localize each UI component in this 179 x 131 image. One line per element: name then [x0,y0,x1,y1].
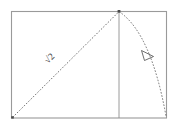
origin-marker [11,116,14,118]
figure-root: √2 [0,0,179,131]
apex-marker [118,10,121,13]
trajectory-figure: √2 [0,0,179,131]
canvas-background [0,0,179,131]
